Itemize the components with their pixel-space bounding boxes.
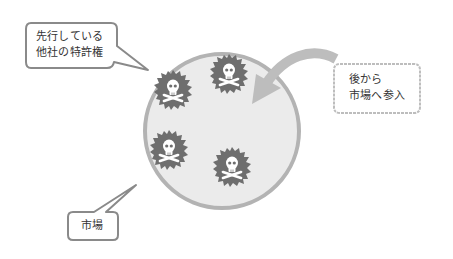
incumbent-patents-line-1: 先行している bbox=[36, 29, 103, 45]
entrant-label: 後から 市場へ参入 bbox=[349, 72, 405, 104]
entry-arrow-icon bbox=[252, 53, 336, 104]
entrant-line-2: 市場へ参入 bbox=[349, 88, 405, 104]
incumbent-patents-label: 先行している 他社の特許権 bbox=[36, 29, 103, 61]
incumbent-patents-line-2: 他社の特許権 bbox=[36, 45, 103, 61]
market-label: 市場 bbox=[81, 218, 103, 234]
entrant-line-1: 後から bbox=[349, 72, 405, 88]
